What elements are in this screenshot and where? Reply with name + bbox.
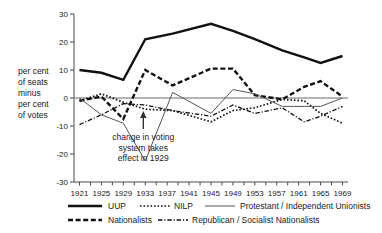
y-tick-label: -20: [56, 150, 68, 159]
y-axis-ticks: 3020100-10-20-30: [56, 10, 74, 187]
axis-lines: [74, 14, 348, 182]
legend-label: Protestant / Independent Unionists: [240, 201, 370, 211]
y-axis-label-line: per cent: [18, 66, 49, 76]
x-tick-label: 1961: [290, 189, 308, 198]
y-axis-label-line: per cent: [18, 99, 49, 109]
y-tick-label: -30: [56, 178, 68, 187]
y-tick-label: 10: [59, 66, 68, 75]
x-tick-label: 1953: [246, 189, 264, 198]
series-line: [79, 69, 342, 119]
y-axis-label-line: of seats: [18, 77, 48, 87]
chart-legend: UUPNILPProtestant / Independent Unionist…: [68, 201, 370, 225]
x-tick-label: 1941: [180, 189, 198, 198]
x-tick-label: 1925: [93, 189, 111, 198]
legend-label: Republican / Socialist Nationalists: [192, 215, 320, 225]
legend-label: UUP: [108, 201, 126, 211]
series-line: [79, 24, 342, 80]
x-tick-label: 1945: [202, 189, 220, 198]
x-tick-label: 1937: [158, 189, 176, 198]
x-tick-label: 1965: [312, 189, 330, 198]
x-tick-label: 1969: [334, 189, 352, 198]
annotation-line: change in voting: [112, 132, 174, 142]
y-tick-label: -10: [56, 122, 68, 131]
x-tick-label: 1929: [114, 189, 132, 198]
y-axis-label: per centof seatsminusper centof votes: [18, 66, 49, 120]
x-tick-label: 1921: [71, 189, 89, 198]
x-tick-label: 1957: [268, 189, 286, 198]
legend-label: Nationalists: [108, 215, 152, 225]
annotation-line: system takes: [119, 143, 169, 153]
chart-figure: per centof seatsminusper centof votes 30…: [0, 0, 382, 233]
annotation-arrow-head: [140, 111, 146, 118]
y-tick-label: 0: [64, 94, 69, 103]
legend-label: NILP: [174, 201, 193, 211]
x-axis-ticks: 1921192519291933193719411945194919531957…: [71, 182, 352, 198]
chart-annotation: change in votingsystem takeseffect in 19…: [112, 111, 174, 163]
x-tick-label: 1949: [224, 189, 242, 198]
y-tick-label: 30: [59, 10, 68, 19]
y-axis-label-line: minus: [18, 88, 41, 98]
y-tick-label: 20: [59, 38, 68, 47]
y-axis-label-line: of votes: [18, 110, 48, 120]
x-tick-label: 1933: [136, 189, 154, 198]
annotation-line: effect in 1929: [118, 153, 169, 163]
